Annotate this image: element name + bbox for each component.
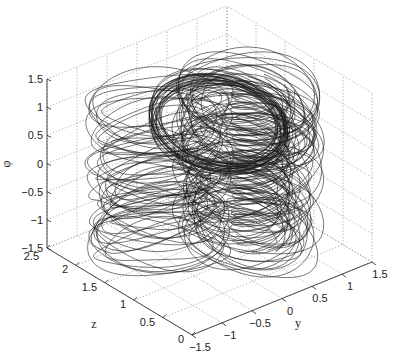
phi-tick-label: −0.5: [21, 186, 43, 198]
attractor-trajectory: [85, 47, 324, 278]
z-tick-label: 0: [178, 333, 184, 345]
z-tick-label: 2.5: [24, 250, 39, 262]
y-tick-label: 0: [287, 305, 293, 317]
z-tick-label: 0.5: [140, 316, 155, 328]
trajectory-path: [85, 47, 324, 278]
z-tick-label: 1.5: [82, 281, 97, 293]
y-tick-label: 1: [347, 280, 353, 292]
phi-tick-label: 1: [37, 101, 43, 113]
y-tick-label: 0.5: [312, 292, 327, 304]
y-tick-label: −0.5: [249, 317, 271, 329]
y-tick-label: −1: [224, 329, 237, 341]
attractor-3d-plot: 1.510.50−0.5−1−1.52.521.510.50−1.5−1−0.5…: [0, 0, 404, 353]
phi-tick-label: 0.5: [28, 129, 43, 141]
phi-tick-label: −1: [30, 214, 43, 226]
phi-axis-label: φ: [0, 160, 13, 167]
y-tick-label: 1.5: [372, 268, 387, 280]
z-tick-label: 2: [62, 263, 68, 275]
phi-tick-label: 1.5: [28, 73, 43, 85]
y-axis-label: y: [295, 316, 301, 330]
y-tick-label: −1.5: [189, 341, 211, 353]
phi-tick-label: 0: [37, 158, 43, 170]
z-tick-label: 1: [120, 298, 126, 310]
z-axis-label: z: [91, 317, 96, 331]
